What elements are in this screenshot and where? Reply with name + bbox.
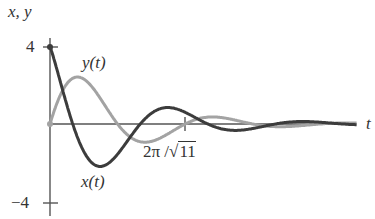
x-axis-label: t [366, 114, 371, 134]
y-tick-label-bottom: −4 [11, 193, 29, 213]
sqrt-sign: √ [169, 142, 178, 161]
y-axis-label: x, y [8, 2, 32, 22]
y-start-point [47, 121, 53, 127]
series-label-y: y(t) [82, 53, 106, 73]
x-tick-label: 2π /√11 [143, 142, 196, 162]
tick-label-prefix: 2π / [143, 142, 169, 161]
y-tick-label-top: 4 [26, 37, 35, 57]
plot-area [0, 0, 375, 219]
tick-label-radicand: 11 [178, 141, 195, 161]
series-y-line [50, 77, 357, 142]
x-start-point [47, 44, 53, 50]
series-label-x: x(t) [81, 172, 105, 192]
